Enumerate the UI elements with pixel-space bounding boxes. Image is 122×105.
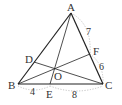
length-FC: 6 (99, 61, 104, 72)
label-O: O (54, 70, 62, 82)
label-B: B (8, 79, 15, 91)
triangle-diagram: A B C D E F O 4 8 7 6 (0, 0, 122, 105)
length-AF: 7 (86, 26, 91, 37)
length-BE: 4 (30, 86, 35, 97)
label-A: A (67, 1, 75, 13)
label-F: F (93, 45, 99, 57)
label-E: E (46, 88, 53, 100)
label-D: D (25, 53, 33, 65)
label-C: C (105, 79, 112, 91)
length-EC: 8 (72, 89, 77, 100)
